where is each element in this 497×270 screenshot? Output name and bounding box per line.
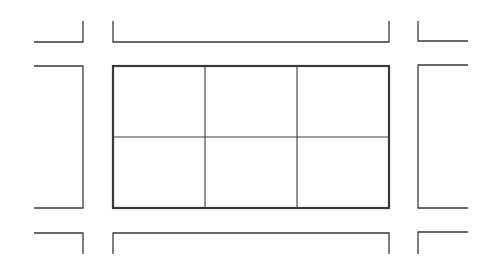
top-right-block <box>418 21 468 41</box>
top-left-block <box>34 21 83 42</box>
middle-right-block <box>418 65 468 208</box>
top-middle-block <box>113 21 389 42</box>
city-block-diagram <box>0 0 497 270</box>
bottom-right-block <box>418 232 468 254</box>
central-block-grid <box>113 66 389 208</box>
middle-left-block <box>34 66 83 208</box>
bottom-middle-block <box>113 233 389 254</box>
bottom-left-block <box>34 233 83 254</box>
